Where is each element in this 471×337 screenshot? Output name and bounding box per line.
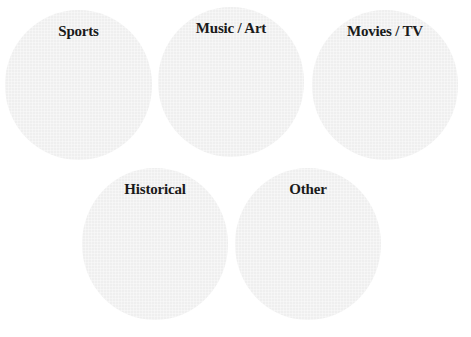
category-circle-other: Other — [235, 168, 381, 320]
circle-label-historical: Historical — [82, 181, 228, 198]
category-circle-historical: Historical — [82, 168, 228, 320]
category-circle-sports: Sports — [5, 10, 152, 160]
circle-label-music-art: Music / Art — [158, 20, 304, 37]
category-circle-music-art: Music / Art — [158, 7, 304, 157]
circle-label-movies-tv: Movies / TV — [312, 23, 458, 40]
circle-label-other: Other — [235, 181, 381, 198]
circle-label-sports: Sports — [5, 23, 152, 40]
category-circle-movies-tv: Movies / TV — [312, 10, 458, 160]
